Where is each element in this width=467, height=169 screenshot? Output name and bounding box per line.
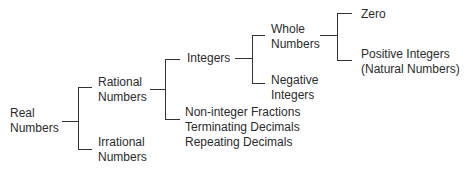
node-zero: Zero [361, 7, 386, 22]
node-positive-line2: (Natural Numbers) [361, 62, 460, 77]
connector-rational-spine [165, 59, 166, 120]
node-terminating-decimals: Terminating Decimals [185, 120, 300, 135]
node-whole-line2: Numbers [271, 37, 320, 52]
node-whole-numbers: Whole Numbers [271, 22, 320, 52]
connector-whole-stem [320, 35, 337, 36]
connector-real-to-irrational [78, 149, 92, 150]
connector-rational-stem [150, 89, 165, 90]
connector-integers-to-whole [252, 35, 265, 36]
node-positive-line1: Positive Integers [361, 47, 460, 62]
node-zero-line1: Zero [361, 7, 386, 22]
node-real-numbers: Real Numbers [10, 106, 59, 136]
node-integers: Integers [187, 51, 230, 66]
node-negative-integers: Negative Integers [271, 73, 318, 103]
node-rational-line2: Numbers [98, 90, 147, 105]
connector-whole-to-positive [337, 60, 352, 61]
connector-real-spine [78, 87, 79, 150]
node-negative-line1: Negative [271, 73, 318, 88]
connector-integers-spine [252, 35, 253, 84]
connector-real-stem [62, 121, 78, 122]
connector-rational-to-non-integers [165, 119, 180, 120]
connector-rational-to-integers [165, 59, 180, 60]
node-integers-line1: Integers [187, 51, 230, 66]
connector-integers-to-negative [252, 83, 265, 84]
connector-whole-spine [337, 13, 338, 61]
node-real-line1: Real [10, 106, 59, 121]
node-repeating-decimals: Repeating Decimals [185, 135, 300, 150]
real-numbers-tree-diagram: Real Numbers Rational Numbers Irrational… [0, 0, 467, 169]
node-positive-integers: Positive Integers (Natural Numbers) [361, 47, 460, 77]
connector-real-to-rational [78, 87, 92, 88]
node-rational-numbers: Rational Numbers [98, 75, 147, 105]
connector-whole-to-zero [337, 13, 352, 14]
connector-integers-stem [235, 58, 252, 59]
node-non-integer-rationals: Non-integer Fractions Terminating Decima… [185, 105, 300, 150]
node-whole-line1: Whole [271, 22, 320, 37]
node-non-integer-fractions: Non-integer Fractions [185, 105, 300, 120]
node-real-line2: Numbers [10, 121, 59, 136]
node-irrational-line1: Irrational [98, 135, 147, 150]
node-rational-line1: Rational [98, 75, 147, 90]
node-irrational-numbers: Irrational Numbers [98, 135, 147, 165]
node-negative-line2: Integers [271, 88, 318, 103]
node-irrational-line2: Numbers [98, 150, 147, 165]
